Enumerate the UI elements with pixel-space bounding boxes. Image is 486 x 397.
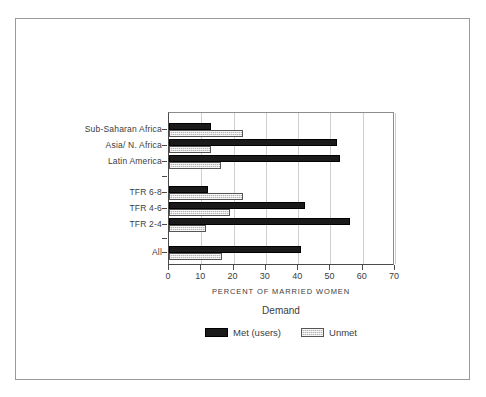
y-axis-label: Sub-Saharan Africa — [85, 124, 162, 134]
y-axis-tick-separator — [162, 238, 167, 239]
x-axis-tick-label: 70 — [382, 271, 406, 281]
bar-unmet — [169, 253, 222, 260]
gridline — [395, 113, 396, 264]
y-axis-label: Asia/ N. Africa — [106, 140, 162, 150]
y-axis-category-labels: Sub-Saharan AfricaAsia/ N. AfricaLatin A… — [38, 112, 162, 265]
bar-unmet — [169, 225, 206, 232]
legend-label: Unmet — [329, 327, 357, 338]
y-axis-tick — [162, 252, 167, 253]
y-axis-label: All — [152, 247, 162, 257]
x-axis-tick — [329, 265, 330, 270]
legend-label: Met (users) — [233, 327, 281, 338]
bar-unmet — [169, 193, 243, 200]
gridline — [266, 113, 267, 264]
x-axis-title: PERCENT OF MARRIED WOMEN — [168, 287, 394, 296]
y-axis-tick — [162, 208, 167, 209]
x-axis-tick-label: 50 — [317, 271, 341, 281]
bar-met — [169, 218, 350, 225]
bar-met — [169, 155, 340, 162]
bar-unmet — [169, 130, 243, 137]
legend-swatch-unmet — [301, 328, 324, 337]
bar-unmet — [169, 162, 221, 169]
x-axis-tick — [233, 265, 234, 270]
y-axis-label: TFR 4-6 — [129, 203, 162, 213]
x-axis-tick-label: 60 — [350, 271, 374, 281]
y-axis-label: TFR 6-8 — [129, 187, 162, 197]
x-axis-tick-label: 0 — [156, 271, 180, 281]
bar-met — [169, 123, 211, 130]
gridline — [363, 113, 364, 264]
x-axis-tick-label: 10 — [188, 271, 212, 281]
bar-met — [169, 202, 305, 209]
x-axis-tick — [394, 265, 395, 270]
bar-met — [169, 246, 301, 253]
bar-unmet — [169, 146, 211, 153]
x-axis-tick-label: 20 — [221, 271, 245, 281]
legend: Met (users)Unmet — [168, 327, 394, 338]
x-axis-tick — [265, 265, 266, 270]
legend-entry: Met (users) — [205, 327, 281, 338]
y-axis-tick-separator — [162, 176, 167, 177]
x-axis-tick — [362, 265, 363, 270]
gridline — [298, 113, 299, 264]
y-axis-tick — [162, 192, 167, 193]
legend-entry: Unmet — [301, 327, 357, 338]
y-axis-tick — [162, 129, 167, 130]
x-axis-tick — [297, 265, 298, 270]
chart-figure: Sub-Saharan AfricaAsia/ N. AfricaLatin A… — [0, 0, 486, 397]
legend-title: Demand — [168, 305, 394, 316]
bar-met — [169, 139, 337, 146]
y-axis-label: TFR 2-4 — [129, 219, 162, 229]
y-axis-tick — [162, 161, 167, 162]
gridline — [330, 113, 331, 264]
x-axis-tick-label: 30 — [253, 271, 277, 281]
bar-met — [169, 186, 208, 193]
x-axis-tick — [168, 265, 169, 270]
y-axis-label: Latin America — [108, 156, 162, 166]
bar-unmet — [169, 209, 230, 216]
plot-area — [168, 112, 394, 265]
y-axis-tick — [162, 145, 167, 146]
y-axis-tick — [162, 224, 167, 225]
x-axis-tick — [200, 265, 201, 270]
x-axis-tick-label: 40 — [285, 271, 309, 281]
legend-swatch-met — [205, 328, 228, 337]
